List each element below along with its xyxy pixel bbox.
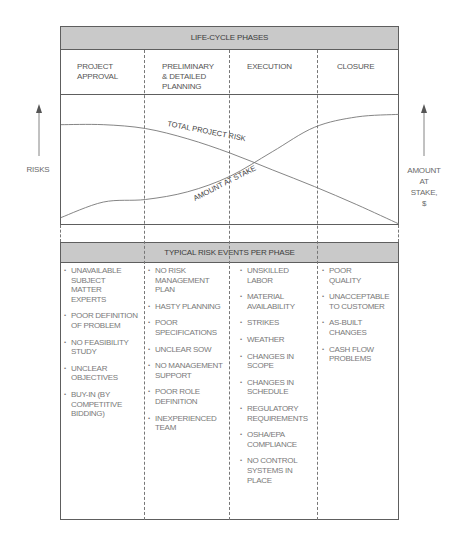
bullet-icon: • xyxy=(240,378,242,388)
right-gap-divider xyxy=(398,225,399,242)
bullet-icon: • xyxy=(64,266,66,276)
risk-event-item: •UNCLEAR SOW xyxy=(148,345,228,355)
bullet-icon: • xyxy=(240,456,242,466)
risk-event-item: •UNSKILLEDLABOR xyxy=(240,266,318,285)
life-cycle-phases-header: LIFE-CYCLE PHASES xyxy=(60,26,399,50)
amount-at-stake-axis-label: AMOUNT AT STAKE, $ xyxy=(404,165,444,209)
bullet-icon: • xyxy=(240,352,242,362)
risk-event-item: •OSHA/EPACOMPLIANCE xyxy=(240,430,318,449)
risk-event-item: •UNAVAILABLESUBJECTMATTEREXPERTS xyxy=(64,266,144,304)
bullet-icon: • xyxy=(322,266,324,276)
risks-axis-label: RISKS xyxy=(18,164,58,175)
risk-event-item: •CASH FLOWPROBLEMS xyxy=(322,345,400,364)
bullet-icon: • xyxy=(148,266,150,276)
bullet-icon: • xyxy=(64,364,66,374)
risk-event-item: •AS-BUILTCHANGES xyxy=(322,318,400,337)
total-project-risk-label: TOTAL PROJECT RISK xyxy=(167,119,247,143)
amount-at-stake-label: AMOUNT AT STAKE xyxy=(192,163,258,202)
bullet-icon: • xyxy=(64,311,66,321)
bullet-icon: • xyxy=(148,361,150,371)
risk-event-item: •POORSPECIFICATIONS xyxy=(148,318,228,337)
bullet-icon: • xyxy=(148,387,150,397)
bullet-icon: • xyxy=(240,266,242,276)
risk-event-item: •NO MANAGEMENTSUPPORT xyxy=(148,361,228,380)
bullet-icon: • xyxy=(322,345,324,355)
header-title: LIFE-CYCLE PHASES xyxy=(191,33,269,42)
risk-event-item: •NO FEASIBILITYSTUDY xyxy=(64,338,144,357)
risk-event-item: •INEXPERIENCEDTEAM xyxy=(148,414,228,433)
phase-divider-2 xyxy=(229,50,230,520)
risk-event-item: •HASTY PLANNING xyxy=(148,302,228,312)
risk-event-item: •STRIKES xyxy=(240,318,318,328)
risk-event-item: •UNCLEAROBJECTIVES xyxy=(64,364,144,383)
bullet-icon: • xyxy=(240,404,242,414)
risk-event-item: •NO CONTROLSYSTEMS INPLACE xyxy=(240,456,318,485)
amount-at-stake-arrow-icon xyxy=(419,104,429,156)
risk-event-item: •BUY-IN (BYCOMPETITIVEBIDDING) xyxy=(64,390,144,419)
left-gap-divider xyxy=(60,225,61,242)
phase-label-project-approval: PROJECT APPROVAL xyxy=(77,62,141,82)
risk-column-closure: •POORQUALITY•UNACCEPTABLETO CUSTOMER•AS-… xyxy=(322,266,400,371)
bullet-icon: • xyxy=(148,414,150,424)
bullet-icon: • xyxy=(240,335,242,345)
risk-event-item: •NO RISKMANAGEMENTPLAN xyxy=(148,266,228,295)
phase-label-planning: PRELIMINARY & DETAILED PLANNING xyxy=(162,62,228,92)
risk-chart: TOTAL PROJECT RISK AMOUNT AT STAKE xyxy=(60,95,400,225)
risk-event-item: •POOR DEFINITIONOF PROBLEM xyxy=(64,311,144,330)
risk-column-project-approval: •UNAVAILABLESUBJECTMATTEREXPERTS•POOR DE… xyxy=(64,266,144,426)
bullet-icon: • xyxy=(148,345,150,355)
risk-column-execution: •UNSKILLEDLABOR•MATERIALAVAILABILITY•STR… xyxy=(240,266,318,492)
bullet-icon: • xyxy=(64,390,66,400)
risk-event-item: •REGULATORYREQUIREMENTS xyxy=(240,404,318,423)
risk-event-item: •POORQUALITY xyxy=(322,266,400,285)
bullet-icon: • xyxy=(240,292,242,302)
bullet-icon: • xyxy=(240,430,242,440)
risk-event-item: •MATERIALAVAILABILITY xyxy=(240,292,318,311)
risk-event-item: •UNACCEPTABLETO CUSTOMER xyxy=(322,292,400,311)
phase-divider-1 xyxy=(144,50,145,520)
risk-event-item: •CHANGES INSCHEDULE xyxy=(240,378,318,397)
bullet-icon: • xyxy=(240,318,242,328)
risk-event-item: •POOR ROLEDEFINITION xyxy=(148,387,228,406)
bullet-icon: • xyxy=(148,302,150,312)
risk-event-item: •CHANGES INSCOPE xyxy=(240,352,318,371)
phase-label-execution: EXECUTION xyxy=(247,62,317,72)
bullet-icon: • xyxy=(64,338,66,348)
bullet-icon: • xyxy=(322,292,324,302)
risk-column-planning: •NO RISKMANAGEMENTPLAN•HASTY PLANNING•PO… xyxy=(148,266,228,440)
bullet-icon: • xyxy=(148,318,150,328)
bullet-icon: • xyxy=(322,318,324,328)
amount-at-stake-line xyxy=(61,114,399,217)
risk-event-item: •WEATHER xyxy=(240,335,318,345)
risks-arrow-icon xyxy=(34,104,44,156)
phase-label-closure: CLOSURE xyxy=(337,62,397,72)
